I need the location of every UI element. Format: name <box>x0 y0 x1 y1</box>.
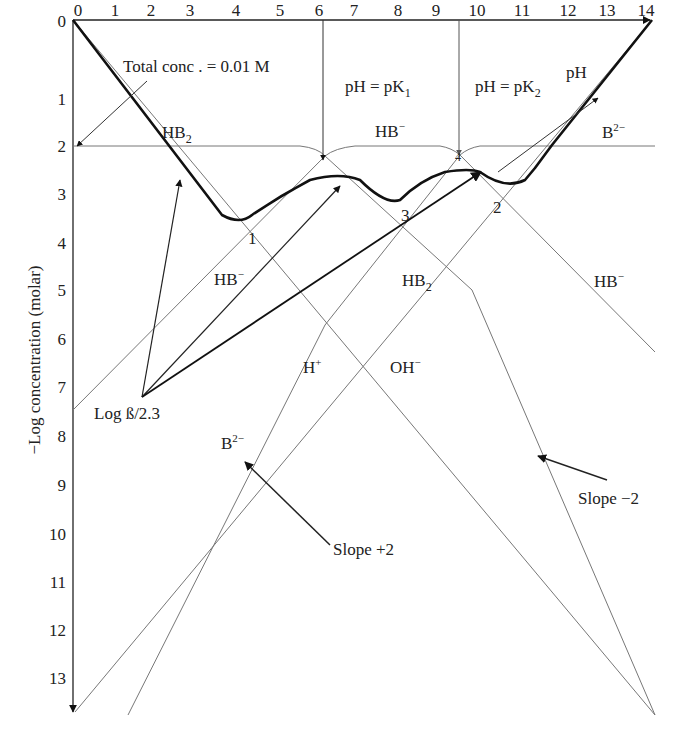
x-tick: 7 <box>350 1 359 20</box>
x-tick-labels: 0 1 2 3 4 5 6 7 8 9 10 11 12 13 14 <box>74 1 655 20</box>
ph-arrow <box>498 98 598 172</box>
point-2-label: 2 <box>493 198 502 217</box>
hbm-right-label: HB− <box>594 270 624 291</box>
b2-low-label: B2− <box>221 432 244 453</box>
y-tick: 4 <box>58 234 67 253</box>
y-tick-labels: 0 1 2 3 4 5 6 7 8 9 10 11 12 13 <box>49 12 67 688</box>
slope-plus-label: Slope +2 <box>333 540 394 559</box>
point-3-label: 3 <box>401 206 410 225</box>
annotation-arrows <box>77 81 607 545</box>
total-conc-arrow <box>77 81 147 146</box>
annotations: Total conc . = 0.01 M pH = pK1 pH = pK2 … <box>94 57 639 559</box>
pk2-label: pH = pK2 <box>475 77 541 100</box>
y-tick: 1 <box>58 90 67 109</box>
y-axis-label: −Log concentration (molar) <box>25 266 44 455</box>
y-tick: 7 <box>58 378 67 397</box>
y-tick: 6 <box>58 330 67 349</box>
hb2-line <box>73 146 655 715</box>
x-tick: 13 <box>599 1 616 20</box>
total-conc-label: Total conc . = 0.01 M <box>123 57 270 76</box>
slope-plus-arrow <box>245 462 330 545</box>
x-tick: 4 <box>232 1 241 20</box>
x-tick: 12 <box>560 1 577 20</box>
y-tick: 13 <box>49 669 66 688</box>
x-tick: 6 <box>315 1 324 20</box>
x-tick: 11 <box>514 1 530 20</box>
b2-top-label: B2− <box>602 121 625 142</box>
pk1-label: pH = pK1 <box>345 77 411 100</box>
hb2-mid-label: HB2 <box>402 271 432 294</box>
y-tick: 9 <box>58 476 67 495</box>
x-tick: 1 <box>111 1 120 20</box>
x-tick: 10 <box>469 1 486 20</box>
y-tick: 11 <box>50 573 66 592</box>
y-tick: 10 <box>49 525 66 544</box>
oh-label: OH− <box>390 356 421 377</box>
point-1-label: 1 <box>248 229 257 248</box>
logbeta-arrow-1 <box>142 180 180 397</box>
x-tick: 2 <box>147 1 156 20</box>
y-tick: 3 <box>58 185 67 204</box>
x-tick: 14 <box>638 1 656 20</box>
x-tick: 5 <box>276 1 285 20</box>
slope-minus-label: Slope −2 <box>578 489 639 508</box>
ph-label: pH <box>566 63 587 82</box>
x-tick: 0 <box>74 1 83 20</box>
y-tick: 2 <box>58 137 67 156</box>
logbeta-label: Log ß/2.3 <box>94 404 160 423</box>
log-concentration-diagram: 0 1 2 3 4 5 6 7 8 9 10 11 12 13 14 0 1 2… <box>0 0 682 742</box>
x-tick: 3 <box>186 1 195 20</box>
point-4-label: 4 <box>455 150 461 164</box>
y-tick: 8 <box>58 427 67 446</box>
hbm-left-label: HB− <box>214 268 244 289</box>
y-tick: 5 <box>58 281 67 300</box>
hplus-label: H+ <box>303 356 322 377</box>
x-tick: 9 <box>432 1 441 20</box>
x-tick: 8 <box>394 1 403 20</box>
hbm-top-label: HB− <box>375 120 405 141</box>
y-tick: 12 <box>49 621 66 640</box>
y-tick: 0 <box>58 12 67 31</box>
